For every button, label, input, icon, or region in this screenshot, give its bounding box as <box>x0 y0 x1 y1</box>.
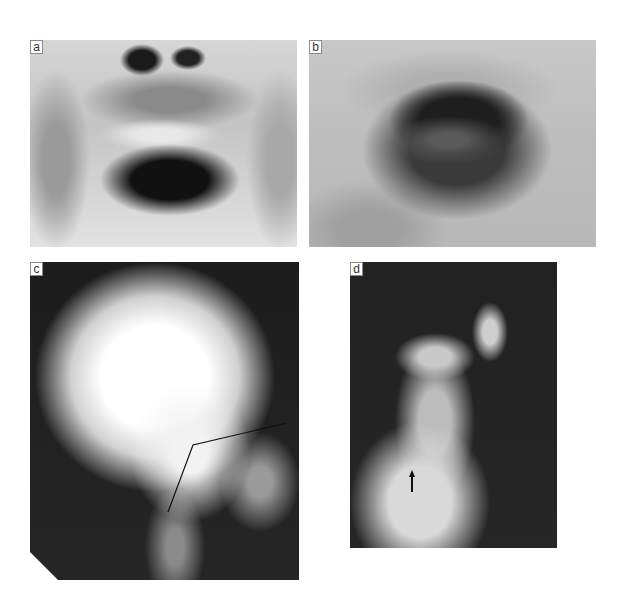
panel-b-open-mouth-photo: b <box>309 40 596 247</box>
panel-d-hand-photo: d <box>350 262 557 548</box>
panel-label-b: b <box>309 40 322 54</box>
arrow-up-icon <box>409 470 415 492</box>
angle-line-annotation <box>30 262 299 580</box>
panel-label-a: a <box>30 40 43 54</box>
panel-label-d: d <box>350 262 363 276</box>
panel-label-c: c <box>30 262 43 276</box>
panel-c-skull-xray: c <box>30 262 299 580</box>
panel-a-mouth-photo: a <box>30 40 297 247</box>
